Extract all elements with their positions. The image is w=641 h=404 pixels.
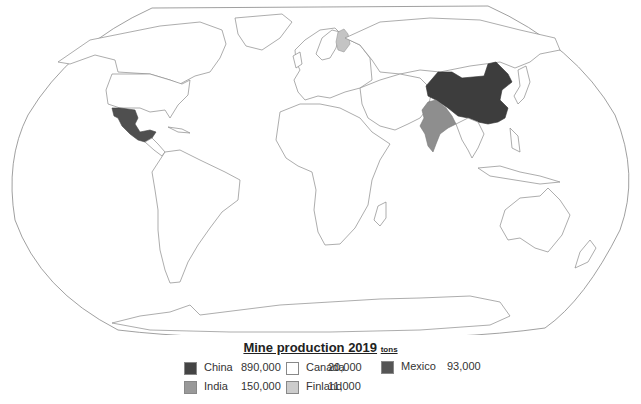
legend-value: 150,000 (241, 380, 281, 392)
legend-value: 11,000 (328, 380, 361, 392)
swatch-finland (286, 381, 299, 394)
legend-value: 890,000 (241, 361, 281, 373)
legend-value: 20,000 (328, 361, 362, 373)
world-map (0, 0, 641, 335)
legend: Mine production 2019 tons China 890,000 … (0, 337, 641, 404)
legend-unit: tons (381, 345, 398, 354)
swatch-canada (286, 362, 299, 375)
swatch-china (184, 362, 197, 375)
legend-label: China (204, 361, 233, 373)
swatch-mexico (381, 361, 394, 374)
swatch-india (184, 381, 197, 394)
legend-label: Mexico (401, 360, 436, 372)
legend-label: India (204, 380, 228, 392)
legend-value: 93,000 (447, 360, 481, 372)
legend-title: Mine production 2019 tons (0, 340, 641, 355)
legend-title-text: Mine production 2019 (243, 340, 377, 355)
